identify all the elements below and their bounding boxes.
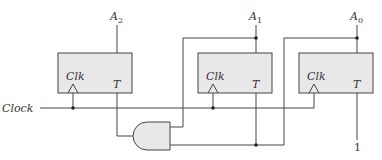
junction-dot xyxy=(254,36,258,40)
clk-label: Clk xyxy=(307,70,326,83)
circuit-diagram: Clock A2 A1 A0 Clk Clk Clk T T T 1 xyxy=(0,0,382,160)
a1-label: A1 xyxy=(248,10,262,25)
clock-label: Clock xyxy=(2,102,34,115)
and-gate xyxy=(133,122,170,150)
and-to-t-a2-wire xyxy=(117,93,133,136)
clk-label: Clk xyxy=(66,70,85,83)
junction-dot xyxy=(71,106,75,110)
clk-label: Clk xyxy=(206,70,225,83)
junction-dot xyxy=(254,143,258,147)
a0-label: A0 xyxy=(349,10,363,25)
junction-dot xyxy=(355,36,359,40)
junction-dot xyxy=(211,106,215,110)
a2-label: A2 xyxy=(109,10,123,25)
constant-one-label: 1 xyxy=(354,141,361,154)
